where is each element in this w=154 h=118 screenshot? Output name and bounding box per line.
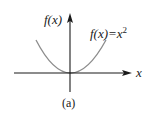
x-axis-label: x	[136, 66, 142, 79]
curve-label-exponent: 2	[123, 25, 128, 35]
parabola-curve	[36, 40, 106, 73]
parabola-diagram	[0, 0, 154, 118]
figure-caption: (a)	[62, 97, 75, 109]
curve-label: f(x)=x2	[90, 26, 127, 40]
curve-label-text: f(x)=x	[90, 26, 123, 41]
y-axis-label: f(x)	[44, 13, 62, 26]
